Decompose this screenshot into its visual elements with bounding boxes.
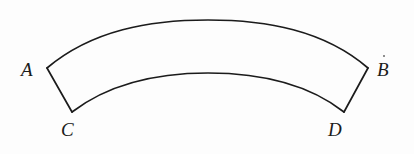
right-radial-edge [344, 68, 368, 112]
figure-canvas: A B C D [0, 0, 414, 154]
vertex-label-b: B [377, 60, 389, 79]
vertex-label-d: D [328, 120, 342, 139]
left-radial-edge [47, 68, 72, 112]
vertex-label-c: C [61, 120, 74, 139]
vertex-label-a: A [21, 60, 33, 79]
ink-speck-artifact [383, 55, 385, 57]
outer-arc-path [47, 20, 368, 68]
inner-arc-path [72, 73, 344, 112]
